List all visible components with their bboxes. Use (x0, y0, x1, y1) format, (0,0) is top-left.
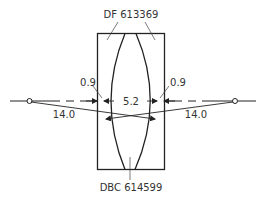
right-focal-distance-label: 14.0 (185, 109, 207, 120)
top-leader-left (107, 22, 118, 40)
top-leader-right (145, 22, 155, 40)
right-focal-point-icon (233, 99, 238, 104)
left-focal-distance-label: 14.0 (53, 109, 75, 120)
right-thickness-label: 0.9 (170, 77, 186, 88)
top-glass-label: DF 613369 (104, 9, 159, 20)
left-thickness-label: 0.9 (80, 77, 96, 88)
center-thickness-label: 5.2 (123, 96, 139, 107)
lens-diagram: DF 613369 DBC 614599 0.9 0.9 5.2 14.0 14… (0, 0, 261, 199)
left-focal-point-icon (27, 99, 32, 104)
bottom-glass-label: DBC 614599 (100, 182, 163, 193)
